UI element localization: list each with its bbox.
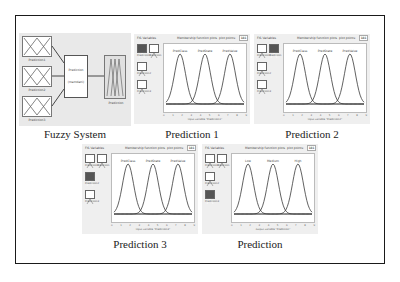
output-membership-icon	[105, 56, 125, 98]
x-axis-ticks: 0123456789	[231, 224, 315, 227]
axis-tick: 4	[320, 114, 322, 117]
fis-variables-label: FIS Variables	[205, 146, 224, 150]
axis-tick: 4	[148, 224, 150, 227]
caption-prediction-1: Prediction 1	[134, 128, 250, 140]
plot-points-input[interactable]: 181	[187, 145, 196, 151]
membership-function-plot[interactable]: LowMediumHigh	[231, 153, 315, 223]
fis-variable-button[interactable]	[257, 62, 267, 71]
mf-plots-label: Membership function plots plot points:	[245, 146, 304, 150]
fis-variables-label: FIS Variables	[137, 36, 156, 40]
mf-label: PredValue	[343, 49, 358, 53]
mf-label: PredClass	[173, 49, 188, 53]
axis-tick: 0	[283, 114, 285, 117]
fis-variable-label: Prediction2	[85, 182, 99, 185]
caption-prediction-3: Prediction 3	[82, 238, 198, 250]
mf-label: PredClass	[121, 159, 136, 163]
axis-tick: 8	[236, 114, 238, 117]
mf-editor-prediction-3: FIS Variables Membership function plots …	[82, 144, 198, 234]
figure-frame: Prediction1 Prediction2 Prediction3 Pred…	[15, 15, 385, 264]
mf-label: PredValue	[171, 159, 186, 163]
fis-variable-button[interactable]	[97, 154, 107, 163]
axis-tick: 0	[163, 114, 165, 117]
fis-variable-button[interactable]	[137, 80, 147, 89]
mf-label: PredState	[146, 159, 161, 163]
axis-tick: 1	[172, 114, 174, 117]
x-axis-label: output variable "Prediction"	[231, 228, 315, 231]
axis-tick: 6	[286, 224, 288, 227]
fis-variable-button[interactable]	[85, 154, 95, 163]
fis-variable-button[interactable]	[205, 190, 215, 199]
axis-tick: 7	[295, 224, 297, 227]
inference-engine-block: Prediction (mamdani)	[64, 55, 88, 98]
axis-tick: 2	[301, 114, 303, 117]
axis-tick: 5	[277, 224, 279, 227]
axis-tick: 9	[365, 114, 367, 117]
axis-tick: 3	[258, 224, 260, 227]
membership-function-plot[interactable]: PredClassPredStatePredValue	[111, 153, 195, 223]
fis-variable-button[interactable]	[269, 44, 279, 53]
axis-tick: 2	[249, 224, 251, 227]
fis-variable-label: Prediction2	[137, 72, 151, 75]
fuzzy-system-diagram: Prediction1 Prediction2 Prediction3 Pred…	[19, 33, 131, 126]
mf-plots-label: Membership function plots plot points:	[125, 146, 184, 150]
axis-tick: 5	[209, 114, 211, 117]
x-axis-ticks: 0123456789	[111, 224, 195, 227]
axis-tick: 6	[338, 114, 340, 117]
fis-variable-button[interactable]	[137, 62, 147, 71]
caption-prediction-2: Prediction 2	[254, 128, 370, 140]
fis-variable-label: Prediction3	[137, 90, 151, 93]
fis-variable-button[interactable]	[85, 172, 95, 181]
axis-tick: 1	[292, 114, 294, 117]
caption-fuzzy-system: Fuzzy System	[19, 128, 131, 140]
mf-plots-label: Membership function plots plot points:	[297, 36, 356, 40]
fis-variable-button[interactable]	[217, 154, 227, 163]
x-axis-ticks: 0123456789	[163, 114, 247, 117]
axis-tick: 3	[310, 114, 312, 117]
engine-type-label: (mamdani)	[65, 80, 87, 84]
axis-tick: 9	[245, 114, 247, 117]
mf-label: PredState	[198, 49, 213, 53]
fis-variable-button[interactable]	[257, 44, 267, 53]
mf-editor-prediction-2: FIS Variables Membership function plots …	[254, 34, 370, 124]
axis-tick: 0	[231, 224, 233, 227]
axis-tick: 3	[138, 224, 140, 227]
mf-label: PredValue	[223, 49, 238, 53]
axis-tick: 9	[313, 224, 315, 227]
axis-tick: 2	[181, 114, 183, 117]
mf-label: Medium	[267, 159, 279, 163]
fis-variables-label: FIS Variables	[257, 36, 276, 40]
mf-editor-prediction-1: FIS Variables Membership function plots …	[134, 34, 250, 124]
x-axis-ticks: 0123456789	[283, 114, 367, 117]
output-block	[104, 55, 126, 99]
axis-tick: 8	[356, 114, 358, 117]
mf-label: Low	[245, 159, 251, 163]
axis-tick: 0	[111, 224, 113, 227]
fis-variable-button[interactable]	[205, 154, 215, 163]
axis-tick: 7	[227, 114, 229, 117]
fis-variable-label: Prediction3	[257, 90, 271, 93]
fis-variable-label: Prediction	[217, 164, 229, 167]
fis-variable-label: Prediction3	[85, 200, 99, 203]
fis-variable-label: Prediction2	[205, 182, 219, 185]
plot-points-input[interactable]: 181	[307, 145, 316, 151]
axis-tick: 2	[129, 224, 131, 227]
mf-plots-label: Membership function plots plot points:	[177, 36, 236, 40]
fis-variable-label: Prediction2	[257, 72, 271, 75]
fis-variable-button[interactable]	[257, 80, 267, 89]
x-axis-label: input variable "Prediction3"	[111, 228, 195, 231]
membership-function-plot[interactable]: PredClassPredStatePredValue	[283, 43, 367, 113]
fis-variable-button[interactable]	[205, 172, 215, 181]
membership-function-plot[interactable]: PredClassPredStatePredValue	[163, 43, 247, 113]
plot-points-input[interactable]: 181	[359, 35, 368, 41]
engine-label: Prediction	[65, 68, 87, 72]
axis-tick: 8	[184, 224, 186, 227]
fis-variable-button[interactable]	[85, 190, 95, 199]
axis-tick: 1	[240, 224, 242, 227]
axis-tick: 5	[157, 224, 159, 227]
fis-variable-button[interactable]	[137, 44, 147, 53]
axis-tick: 1	[120, 224, 122, 227]
plot-points-input[interactable]: 181	[239, 35, 248, 41]
fis-variable-button[interactable]	[149, 44, 159, 53]
axis-tick: 6	[218, 114, 220, 117]
mf-label: PredClass	[293, 49, 308, 53]
